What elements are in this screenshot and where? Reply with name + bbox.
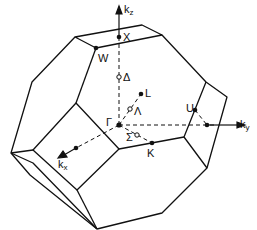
delta-label: Δ bbox=[123, 72, 130, 83]
edge bbox=[77, 190, 97, 229]
point-W bbox=[94, 46, 99, 51]
point-kx-X bbox=[74, 146, 79, 151]
sigma-label: Σ bbox=[126, 132, 133, 143]
K-label: K bbox=[147, 148, 154, 159]
inner-edge-w bbox=[76, 48, 96, 103]
point-L bbox=[139, 92, 144, 97]
W-label: W bbox=[98, 53, 108, 64]
point-gamma bbox=[116, 122, 121, 127]
kx-arrowhead-icon bbox=[58, 151, 67, 158]
X-label: X bbox=[123, 32, 130, 43]
kz-label: kz bbox=[124, 4, 134, 17]
kx-label: kx bbox=[58, 159, 68, 172]
kz-arrowhead-icon bbox=[116, 6, 122, 14]
gamma-label: Γ bbox=[106, 117, 112, 128]
L-label: L bbox=[145, 88, 151, 99]
point-ky-X bbox=[205, 123, 210, 128]
bottom-edge bbox=[97, 35, 227, 229]
kx-axis-dashed bbox=[76, 125, 119, 148]
lambda-label: Λ bbox=[134, 106, 141, 117]
edge bbox=[11, 150, 33, 153]
U-label: U bbox=[186, 103, 194, 114]
point-delta bbox=[117, 75, 121, 79]
point-X bbox=[117, 35, 122, 40]
ky-label: ky bbox=[240, 119, 250, 132]
U-dash bbox=[195, 110, 207, 125]
point-K bbox=[150, 141, 155, 146]
lower-left-face bbox=[11, 153, 97, 229]
outer-edge-left bbox=[11, 37, 97, 229]
point-sigma bbox=[135, 133, 139, 137]
point-lambda bbox=[128, 107, 132, 111]
